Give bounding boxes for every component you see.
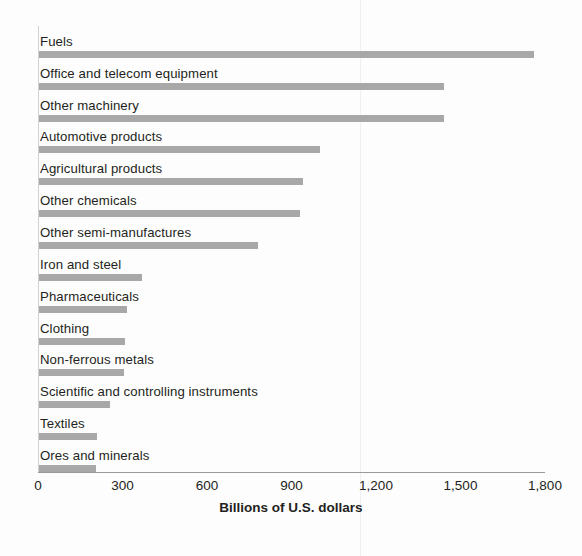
bar xyxy=(38,338,125,345)
bar-category-label: Fuels xyxy=(40,34,73,49)
bar-category-label: Other semi-manufactures xyxy=(40,225,191,240)
x-axis-title: Billions of U.S. dollars xyxy=(0,500,582,515)
bar-category-label: Pharmaceuticals xyxy=(40,289,139,304)
bar xyxy=(38,401,110,408)
bar-row: Pharmaceuticals xyxy=(38,281,545,313)
bar-category-label: Textiles xyxy=(40,416,85,431)
x-axis-tick-label: 0 xyxy=(34,477,42,494)
x-axis-tick-label: 300 xyxy=(111,477,134,494)
x-axis-tick-label: 1,800 xyxy=(528,477,562,494)
plot-area: FuelsOffice and telecom equipmentOther m… xyxy=(38,26,545,472)
bar xyxy=(38,146,320,153)
x-axis-tick-label: 900 xyxy=(280,477,303,494)
bar-row: Clothing xyxy=(38,313,545,345)
bar-row: Ores and minerals xyxy=(38,440,545,472)
bar-category-label: Ores and minerals xyxy=(40,448,149,463)
bar xyxy=(38,274,142,281)
y-axis-line xyxy=(38,26,39,472)
bar-category-label: Clothing xyxy=(40,321,89,336)
bar-category-label: Automotive products xyxy=(40,129,162,144)
bar-row: Other machinery xyxy=(38,90,545,122)
bar-category-label: Agricultural products xyxy=(40,161,162,176)
bar xyxy=(38,369,124,376)
bar-row: Fuels xyxy=(38,26,545,58)
bar xyxy=(38,433,97,440)
bar-row: Automotive products xyxy=(38,122,545,154)
bar-category-label: Other chemicals xyxy=(40,193,137,208)
x-axis-tick-label: 600 xyxy=(196,477,219,494)
bar-row: Agricultural products xyxy=(38,153,545,185)
bar-row: Other semi-manufactures xyxy=(38,217,545,249)
bar xyxy=(38,210,300,217)
bar xyxy=(38,51,534,58)
bar xyxy=(38,242,258,249)
bar xyxy=(38,306,127,313)
bar-category-label: Scientific and controlling instruments xyxy=(40,384,258,399)
bar-chart: FuelsOffice and telecom equipmentOther m… xyxy=(0,0,582,556)
bar xyxy=(38,83,444,90)
bar-row: Other chemicals xyxy=(38,185,545,217)
x-axis-line xyxy=(38,472,545,473)
bar-category-label: Iron and steel xyxy=(40,257,121,272)
bar-row: Iron and steel xyxy=(38,249,545,281)
bar-row: Non-ferrous metals xyxy=(38,345,545,377)
bar xyxy=(38,178,303,185)
bar-row: Textiles xyxy=(38,408,545,440)
bar-category-label: Non-ferrous metals xyxy=(40,352,154,367)
bar-category-label: Office and telecom equipment xyxy=(40,66,218,81)
bar xyxy=(38,465,96,472)
bar-row: Office and telecom equipment xyxy=(38,58,545,90)
bar xyxy=(38,115,444,122)
x-axis-tick-label: 1,500 xyxy=(444,477,478,494)
bar-category-label: Other machinery xyxy=(40,98,139,113)
bar-row: Scientific and controlling instruments xyxy=(38,376,545,408)
x-axis-tick-label: 1,200 xyxy=(359,477,393,494)
